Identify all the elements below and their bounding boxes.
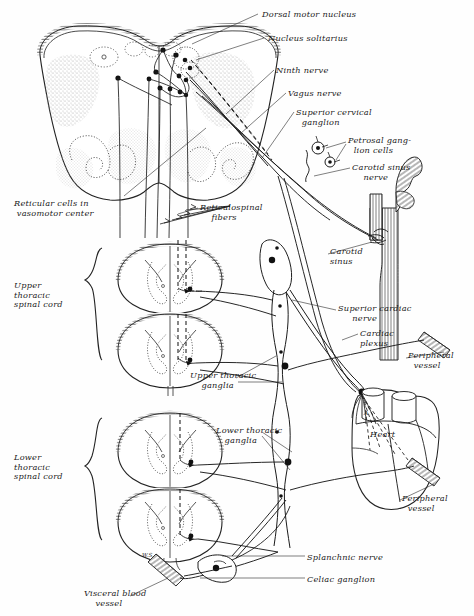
label-heart: Heart: [370, 430, 395, 440]
label-vagus-nerve: Vagus nerve: [288, 89, 342, 99]
label-carotid-sinus: Carotid sinus: [330, 247, 363, 266]
cord-upper-1: [118, 244, 222, 314]
medulla-cross-section: [40, 26, 278, 200]
label-reticulospinal-fibers: Reticulospinal fibers: [200, 203, 263, 222]
label-nucleus-solitarius: Nucleus solitarius: [268, 34, 348, 44]
spinal-cord-sections: [85, 240, 222, 570]
label-visceral-blood-vessel: Visceral blood vessel: [84, 589, 147, 608]
figure-canvas: A: [0, 0, 474, 616]
label-carotid-sinus-nerve: Carotid sinus nerve: [352, 163, 411, 182]
label-lower-thoracic-ganglia: Lower thoracic ganglia: [216, 426, 282, 445]
petrosal-ganglion-cells-shape: [306, 136, 340, 182]
superior-cervical-ganglion-shape: [260, 240, 292, 295]
label-superior-cardiac-nerve: Superior cardiac nerve: [338, 304, 412, 323]
sympathetic-chain: [272, 290, 290, 548]
label-cardiac-plexus: Cardiac plexus: [360, 329, 394, 348]
label-superior-cervical-ganglion: Superior cervical ganglion: [296, 108, 372, 127]
label-ninth-nerve: Ninth nerve: [276, 66, 328, 76]
label-peripheral-vessel-lower: Peripheral vessel: [402, 494, 448, 513]
label-celiac-ganglion: Celiac ganglion: [307, 575, 375, 585]
label-splanchnic-nerve: Splanchnic nerve: [307, 553, 383, 563]
label-dorsal-motor-nucleus: Dorsal motor nucleus: [262, 10, 356, 20]
cord-brace: [85, 248, 102, 540]
label-petrosal-ganglion-cells: Petrosal gang- lion cells: [348, 136, 411, 155]
cord-lower-1: [118, 413, 222, 489]
heart-organ: A: [352, 388, 439, 510]
label-reticular-cells-vasomotor: Reticular cells in vasomotor center: [14, 199, 94, 218]
artist-signature: W.S.: [142, 552, 154, 558]
label-lower-thoracic-spinal-cord: Lower thoracic spinal cord: [14, 453, 63, 482]
label-upper-thoracic-spinal-cord: Upper thoracic spinal cord: [14, 281, 63, 310]
label-peripheral-vessel-upper: Peripheral vessel: [408, 351, 454, 370]
visceral-afferent: [232, 506, 290, 560]
label-upper-thoracic-ganglia: Upper thoracic ganglia: [190, 371, 256, 390]
